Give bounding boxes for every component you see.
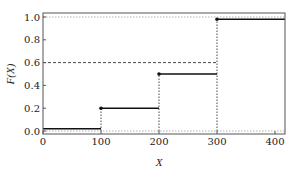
x-axis: 0100200300400: [40, 131, 285, 147]
y-tick-label: 0.8: [24, 34, 40, 45]
plot-area: [43, 17, 285, 131]
x-tick-label: 200: [149, 136, 168, 147]
y-tick-label: 0.2: [24, 103, 40, 114]
y-tick-label: 0.0: [24, 126, 40, 137]
data-point: [99, 106, 103, 110]
x-axis-label: X: [155, 156, 164, 168]
y-tick-label: 0.6: [24, 57, 40, 68]
x-tick-label: 300: [207, 136, 226, 147]
x-tick-label: 400: [265, 136, 284, 147]
cdf-step-chart: 0.00.20.40.60.81.0 0100200300400 X F(X): [0, 0, 298, 172]
data-point: [215, 17, 219, 21]
x-tick-label: 0: [40, 136, 46, 147]
y-tick-label: 0.4: [24, 80, 40, 91]
y-axis-label: F(X): [4, 63, 17, 85]
data-point: [157, 72, 161, 76]
x-tick-label: 100: [91, 136, 110, 147]
y-tick-label: 1.0: [24, 12, 40, 23]
